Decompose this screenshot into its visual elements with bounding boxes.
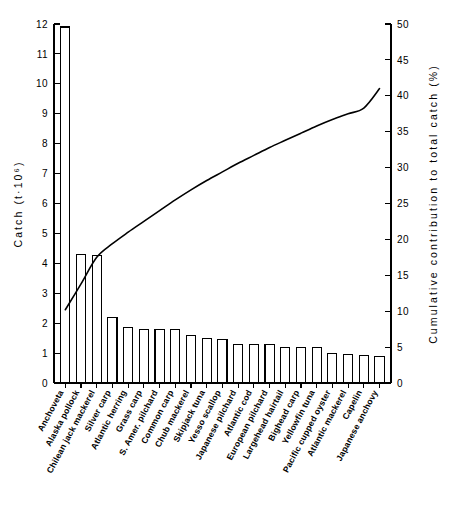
category-axis-labels: AnchovetaAlaska pollockChilean jack mack…	[35, 388, 379, 475]
left-tick-label: 3	[42, 288, 48, 299]
bar	[202, 338, 211, 383]
bar	[124, 328, 133, 383]
bar	[312, 347, 321, 383]
bar	[61, 27, 70, 383]
left-tick-label: 8	[42, 138, 48, 149]
bar	[265, 344, 274, 383]
right-tick-label: 50	[397, 19, 409, 30]
left-axis-ticks: 0123456789101112	[36, 19, 60, 389]
bar	[249, 344, 258, 383]
left-tick-label: 5	[42, 228, 48, 239]
bar	[76, 254, 85, 383]
right-tick-label: 10	[397, 306, 409, 317]
left-tick-label: 1	[42, 348, 48, 359]
bar	[359, 355, 368, 383]
bar	[92, 256, 101, 383]
bar	[139, 329, 148, 383]
left-tick-label: 4	[42, 258, 48, 269]
right-axis-ticks: 05101520253035404550	[385, 19, 409, 389]
right-tick-label: 20	[397, 234, 409, 245]
left-tick-label: 2	[42, 318, 48, 329]
right-axis-title: Cumulative contribution to total catch (…	[427, 64, 439, 344]
left-tick-label: 7	[42, 168, 48, 179]
right-tick-label: 40	[397, 90, 409, 101]
bar-series	[61, 27, 384, 383]
right-tick-label: 45	[397, 55, 409, 66]
cumulative-contribution-curve	[65, 89, 379, 310]
right-tick-label: 15	[397, 270, 409, 281]
bar	[218, 340, 227, 383]
bar	[281, 347, 290, 383]
left-tick-label: 0	[42, 378, 48, 389]
left-tick-label: 9	[42, 108, 48, 119]
bar	[155, 330, 164, 383]
category-axis-ticks	[65, 383, 379, 388]
right-tick-label: 30	[397, 162, 409, 173]
right-tick-label: 35	[397, 126, 409, 137]
left-tick-label: 6	[42, 198, 48, 209]
left-tick-label: 10	[36, 78, 48, 89]
left-tick-label: 11	[37, 49, 48, 60]
bar	[375, 357, 384, 383]
left-axis-title: Catch (t·10⁶)	[12, 160, 24, 247]
right-tick-label: 0	[397, 378, 403, 389]
bar	[328, 353, 337, 383]
bar	[186, 335, 195, 383]
species-catch-chart: 0123456789101112 05101520253035404550 An…	[0, 0, 460, 509]
right-tick-label: 5	[397, 342, 403, 353]
left-tick-label: 12	[36, 19, 48, 30]
bar	[171, 330, 180, 383]
bar	[344, 355, 353, 383]
figure-container: 0123456789101112 05101520253035404550 An…	[0, 0, 460, 509]
bar	[234, 344, 243, 383]
bar	[296, 347, 305, 383]
right-tick-label: 25	[397, 198, 409, 209]
bar	[108, 317, 117, 383]
